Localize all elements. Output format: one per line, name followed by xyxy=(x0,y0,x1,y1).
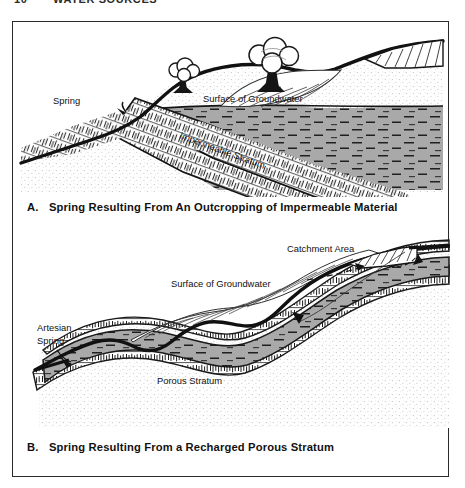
panel-a-caption-text: Spring Resulting From An Outcropping of … xyxy=(49,201,398,213)
page-folio-number: 10 xyxy=(14,0,27,5)
label-catchment-area: Catchment Area xyxy=(287,243,355,254)
page-running-header: 10 WATER SOURCES xyxy=(0,0,465,10)
figure-frame: Spring Surface of Groundwater Impermeabl… xyxy=(12,21,449,477)
label-artesian-spring-line1: Artesian xyxy=(37,322,71,333)
label-artesian-spring-line2: Spring xyxy=(37,335,64,346)
panel-b-caption-text: Spring Resulting From a Recharged Porous… xyxy=(49,441,334,453)
panel-b: Catchment Area Surface of Groundwater Ar… xyxy=(13,232,450,478)
panel-b-cross-section-diagram: Catchment Area Surface of Groundwater Ar… xyxy=(13,232,450,432)
label-porous-stratum: Porous Stratum xyxy=(157,375,222,386)
panel-a-illustration: Spring Surface of Groundwater Impermeabl… xyxy=(13,22,450,197)
panel-a: Spring Surface of Groundwater Impermeabl… xyxy=(13,22,450,232)
panel-b-caption: B.Spring Resulting From a Recharged Poro… xyxy=(13,441,450,453)
label-surface-of-groundwater-b: Surface of Groundwater xyxy=(171,278,271,289)
panel-a-caption-letter: A. xyxy=(27,201,49,213)
label-surface-of-groundwater-a: Surface of Groundwater xyxy=(203,93,303,104)
panel-a-cross-section-diagram: Spring Surface of Groundwater Impermeabl… xyxy=(13,22,450,197)
panel-a-caption: A.Spring Resulting From An Outcropping o… xyxy=(13,201,450,213)
running-head-title: WATER SOURCES xyxy=(53,0,157,5)
panel-b-caption-letter: B. xyxy=(27,441,49,453)
label-spring: Spring xyxy=(53,95,80,106)
panel-b-illustration: Catchment Area Surface of Groundwater Ar… xyxy=(13,232,450,432)
